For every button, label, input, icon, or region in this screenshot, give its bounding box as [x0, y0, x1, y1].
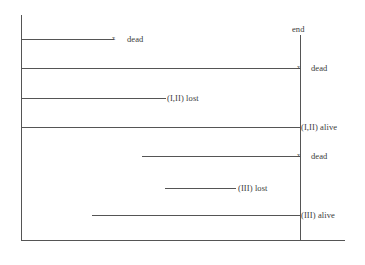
baseline-line	[21, 240, 345, 241]
timeline-diagram: endxdeadxdead(I,II) lost(I,II) alivexdea…	[0, 0, 365, 265]
end-axis-label: end	[292, 25, 305, 34]
axis-rules	[21, 15, 345, 241]
segment-label-1: dead	[127, 35, 143, 44]
segment-label-5: dead	[311, 152, 327, 161]
segment-label-3: (I,II) lost	[167, 94, 199, 103]
segment-label-4: (I,II) alive	[301, 123, 337, 132]
death-marker-5: x	[297, 152, 300, 159]
segment-label-2: dead	[311, 64, 327, 73]
diagram-canvas	[0, 0, 365, 265]
death-marker-2: x	[297, 64, 300, 71]
segment-label-6: (III) lost	[238, 184, 268, 193]
segment-label-7: (III) alive	[301, 211, 335, 220]
death-marker-1: x	[112, 35, 115, 42]
